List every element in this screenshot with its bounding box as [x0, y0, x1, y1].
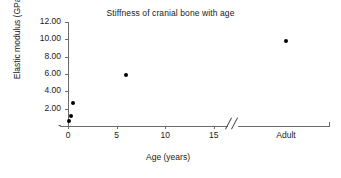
data-point [69, 114, 73, 118]
y-axis-title: Elastic modulus (GPa) [12, 0, 22, 92]
x-tick-mark [117, 126, 118, 129]
y-tick-mark [65, 39, 68, 40]
y-tick-label: - [21, 120, 61, 130]
axis-break-icon [224, 117, 244, 131]
y-tick-mark [65, 57, 68, 58]
y-tick-mark [65, 22, 68, 23]
y-axis-line [68, 22, 69, 126]
y-tick-label: 4.00 [21, 85, 61, 95]
x-tick-label: 10 [145, 130, 185, 140]
data-point [284, 39, 288, 43]
y-tick-label: 2.00 [21, 103, 61, 113]
x-tick-mark [68, 126, 69, 129]
data-point [71, 101, 75, 105]
y-tick-label: 8.00 [21, 51, 61, 61]
y-tick-label: 12.00 [21, 16, 61, 26]
y-tick-mark [65, 74, 68, 75]
x-tick-label: 5 [97, 130, 137, 140]
x-tick-mark [165, 126, 166, 129]
chart-figure: Stiffness of cranial bone with age Elast… [0, 0, 341, 178]
x-tick-label: 15 [194, 130, 234, 140]
x-axis-line-left [60, 126, 228, 127]
x-tick-label: 0 [48, 130, 88, 140]
data-point [67, 119, 71, 123]
x-axis-end-cap [329, 122, 330, 127]
x-tick-mark [214, 126, 215, 129]
y-tick-label: 10.00 [21, 33, 61, 43]
y-tick-label: 6.00 [21, 68, 61, 78]
x-axis-line-right [238, 126, 330, 127]
x-axis-title: Age (years) [68, 152, 268, 162]
y-tick-mark [65, 91, 68, 92]
x-tick-label: Adult [266, 130, 306, 140]
y-tick-mark [65, 109, 68, 110]
data-point [124, 73, 128, 77]
